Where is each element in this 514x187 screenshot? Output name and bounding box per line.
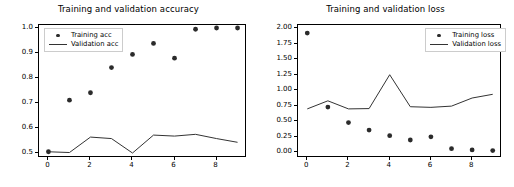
legend-entry-training-loss: Training loss [429,31,501,40]
x-tick-label: 6 [171,161,175,169]
x-tick-mark [47,157,48,160]
data-point [408,138,413,143]
y-tick-mark [35,27,38,28]
x-tick-label: 0 [304,161,308,169]
data-point [172,56,177,61]
x-tick-label: 4 [386,161,390,169]
y-tick-mark [294,89,297,90]
y-tick-label: 2.00 [257,23,292,31]
data-point [429,134,434,139]
x-tick-mark [216,157,217,160]
x-tick-label: 4 [129,161,133,169]
y-tick-label: 0.75 [257,101,292,109]
y-tick-label: 0.8 [0,73,33,81]
y-tick-label: 0.6 [0,123,33,131]
data-point [214,26,219,31]
y-tick-label: 1.00 [257,85,292,93]
data-point [235,26,240,31]
data-point [193,27,198,32]
data-point [109,65,114,70]
data-point [305,31,310,36]
subplot-loss: Training and validation loss 0.000.250.5… [257,0,514,187]
legend-label-validation-loss: Validation loss [452,40,501,49]
x-tick-mark [89,157,90,160]
x-tick-mark [389,157,390,160]
data-point [151,41,156,46]
legend-accuracy: Training acc Validation acc [44,28,123,52]
legend-loss: Training loss Validation loss [425,28,506,52]
x-tick-label: 2 [87,161,91,169]
y-tick-label: 1.0 [0,23,33,31]
y-tick-mark [294,27,297,28]
legend-marker-line-icon [48,44,68,45]
y-tick-mark [35,127,38,128]
data-point [88,90,93,95]
y-tick-mark [294,151,297,152]
data-point [449,146,454,151]
x-tick-label: 6 [428,161,432,169]
y-tick-mark [35,77,38,78]
legend-label-training-acc: Training acc [71,31,112,40]
y-tick-mark [294,74,297,75]
data-point [325,105,330,110]
y-tick-label: 0.00 [257,147,292,155]
x-tick-mark [430,157,431,160]
x-tick-mark [131,157,132,160]
y-tick-mark [35,102,38,103]
legend-entry-training-acc: Training acc [48,31,118,40]
series-line [48,134,237,153]
y-tick-mark [294,120,297,121]
y-tick-mark [35,152,38,153]
legend-entry-validation-loss: Validation loss [429,40,501,49]
x-tick-mark [347,157,348,160]
data-point [67,98,72,103]
y-tick-mark [35,52,38,53]
legend-marker-dot-icon [429,34,449,37]
data-point [367,128,372,133]
y-tick-label: 0.50 [257,116,292,124]
x-tick-label: 8 [213,161,217,169]
subplot-accuracy: Training and validation accuracy 0.50.60… [0,0,257,187]
x-tick-mark [471,157,472,160]
x-tick-label: 8 [469,161,473,169]
y-tick-label: 0.9 [0,48,33,56]
y-tick-label: 1.75 [257,39,292,47]
x-tick-label: 0 [45,161,49,169]
y-tick-label: 0.5 [0,148,33,156]
chart-title-loss: Training and validation loss [257,4,514,14]
matplotlib-figure: Training and validation accuracy 0.50.60… [0,0,514,187]
legend-label-validation-acc: Validation acc [71,40,118,49]
data-point [346,120,351,125]
y-tick-mark [294,43,297,44]
x-tick-label: 2 [345,161,349,169]
legend-label-training-loss: Training loss [452,31,494,40]
series-line [307,75,492,109]
y-tick-mark [294,58,297,59]
data-point [387,133,392,138]
legend-marker-dot-icon [48,34,68,37]
data-point [130,52,135,57]
y-tick-label: 0.25 [257,132,292,140]
y-tick-mark [294,105,297,106]
y-tick-mark [294,136,297,137]
data-point [470,148,475,153]
y-tick-label: 1.50 [257,54,292,62]
data-point [490,148,495,153]
x-tick-mark [174,157,175,160]
y-tick-label: 1.25 [257,70,292,78]
legend-marker-line-icon [429,44,449,45]
x-tick-mark [306,157,307,160]
legend-entry-validation-acc: Validation acc [48,40,118,49]
y-tick-label: 0.7 [0,98,33,106]
chart-title-accuracy: Training and validation accuracy [0,4,257,14]
